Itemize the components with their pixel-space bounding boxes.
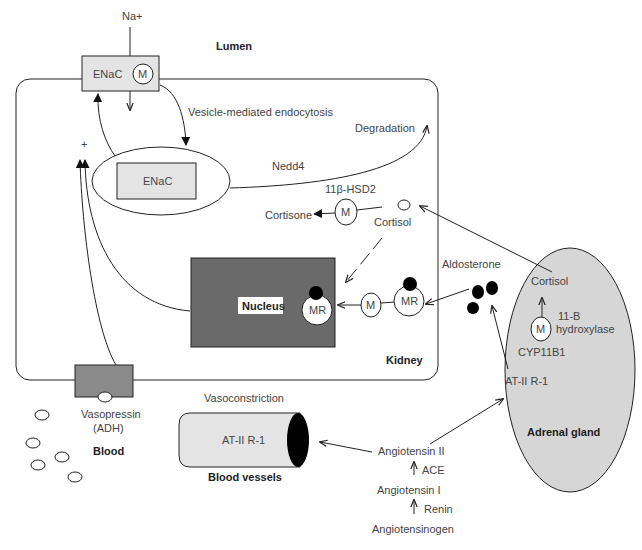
angiotensin-1-label: Angiotensin I bbox=[377, 484, 441, 496]
cortisol-kidney-label: Cortisol bbox=[374, 216, 411, 228]
cortisone-label: Cortisone bbox=[265, 209, 312, 221]
blood-vasopressin-molecules bbox=[26, 410, 82, 482]
adrenal-gland-label: Adrenal gland bbox=[527, 426, 600, 438]
nucleus-mr-label: MR bbox=[309, 304, 326, 316]
nedd4-label: Nedd4 bbox=[272, 160, 304, 172]
cytoplasm-mr-label: MR bbox=[401, 295, 418, 307]
cortisol-kidney-molecule bbox=[398, 200, 410, 210]
raas-cascade: Angiotensin II ACE Angiotensin I Renin A… bbox=[372, 445, 454, 535]
degradation-arrow bbox=[230, 126, 427, 188]
blood-vessels-label: Blood vessels bbox=[208, 471, 282, 483]
plus-sign: + bbox=[81, 138, 87, 150]
renin-label: Renin bbox=[424, 503, 453, 515]
cytoplasm-modifier-label: M bbox=[366, 299, 375, 311]
endocytosis-arrow bbox=[160, 85, 186, 145]
receptor-to-aldosterone-arrow bbox=[492, 306, 508, 369]
vasopressin-label-line1: Vasopressin bbox=[81, 408, 141, 420]
enac-vesicle: ENaC bbox=[92, 147, 230, 215]
hsd2-modifier-label: M bbox=[341, 206, 350, 218]
kidney-label: Kidney bbox=[386, 354, 424, 366]
endocytosis-label: Vesicle-mediated endocytosis bbox=[188, 106, 333, 118]
aldosterone-to-mr-arrow bbox=[426, 289, 469, 304]
vessel-receptor-label: AT-II R-1 bbox=[222, 434, 265, 446]
vasopressin-molecule bbox=[98, 392, 112, 402]
blood-label: Blood bbox=[93, 445, 124, 457]
vasoconstriction-label: Vasoconstriction bbox=[204, 392, 284, 404]
kidney-aldosterone-pathway-diagram: Lumen Na+ ENaC M Vesicle-mediated endocy… bbox=[0, 0, 642, 550]
cyp11b1-label: CYP11B1 bbox=[518, 346, 566, 358]
enac-vesicle-label: ENaC bbox=[143, 175, 172, 187]
enac-membrane-label: ENaC bbox=[93, 68, 122, 80]
adrenal-receptor-label: AT-II R-1 bbox=[505, 375, 548, 387]
angiotensin-2-label: Angiotensin II bbox=[378, 445, 445, 457]
recycling-arrow bbox=[98, 94, 115, 156]
aldosterone-molecules bbox=[467, 281, 498, 314]
aldosterone-label: Aldosterone bbox=[442, 258, 501, 270]
vasopressin-label-line2: (ADH) bbox=[93, 422, 124, 434]
cortisol-to-hsd2-line bbox=[357, 207, 382, 210]
cytoplasm-mr-ligand bbox=[403, 277, 417, 291]
ace-label: ACE bbox=[422, 464, 445, 476]
enzyme-label-line2: hydroxylase bbox=[556, 323, 615, 335]
blood-vessel: AT-II R-1 bbox=[179, 413, 309, 467]
lumen-label: Lumen bbox=[216, 40, 252, 52]
angiotensin2-to-vessel-arrow bbox=[320, 442, 372, 452]
cortisol-to-nucleus-dashed-arrow bbox=[346, 238, 382, 282]
degradation-label: Degradation bbox=[355, 122, 415, 134]
enac-membrane-channel: ENaC M bbox=[82, 56, 159, 91]
modifier-mr-link bbox=[381, 302, 395, 303]
hsd2-to-cortisone-arrow bbox=[314, 213, 335, 214]
sodium-label: Na+ bbox=[122, 10, 143, 22]
adrenal-gland: Cortisol M 11-B hydroxylase CYP11B1 AT-I… bbox=[505, 248, 635, 492]
vasopressin-receptor bbox=[75, 365, 133, 402]
angiotensinogen-label: Angiotensinogen bbox=[372, 523, 454, 535]
enac-modifier-label: M bbox=[138, 68, 147, 80]
enzyme-label-line1: 11-B bbox=[558, 310, 580, 322]
adrenal-modifier-label: M bbox=[536, 323, 545, 335]
nucleus-mr-ligand bbox=[309, 286, 323, 300]
nucleus-label: Nucleus bbox=[242, 300, 285, 312]
hsd2-label: 11β-HSD2 bbox=[325, 183, 376, 195]
adrenal-cortisol-label: Cortisol bbox=[531, 275, 568, 287]
angiotensin2-to-adrenal-arrow bbox=[430, 399, 503, 444]
nucleus: Nucleus MR bbox=[191, 258, 335, 347]
